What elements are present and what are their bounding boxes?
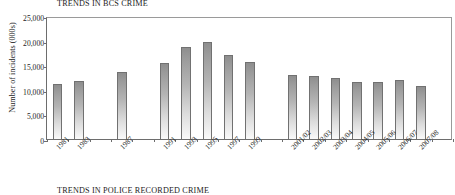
- bar: [74, 81, 84, 139]
- y-tick-mark: [44, 92, 47, 93]
- bar: [203, 42, 213, 139]
- y-tick-label: 10,000: [23, 87, 44, 96]
- plot-area: 05,00010,00015,00020,00025,000: [46, 17, 452, 140]
- bottom-caption: TRENDS IN POLICE RECORDED CRIME: [57, 186, 209, 195]
- bar: [160, 63, 170, 139]
- y-tick-mark: [44, 67, 47, 68]
- y-tick-label: 5,000: [27, 112, 44, 121]
- x-tick-mark: [282, 139, 283, 142]
- y-tick-label: 20,000: [23, 38, 44, 47]
- y-tick-mark: [44, 116, 47, 117]
- y-tick-mark: [44, 43, 47, 44]
- y-tick-label: 25,000: [23, 14, 44, 23]
- bar: [224, 55, 234, 139]
- bar: [309, 76, 319, 139]
- x-tick-mark: [453, 139, 454, 142]
- bcs-crime-bar-chart: TRENDS IN BCS CRIME Number of incidents …: [0, 0, 455, 195]
- y-tick-label: 15,000: [23, 63, 44, 72]
- x-tick-mark: [154, 139, 155, 142]
- chart-title: TRENDS IN BCS CRIME: [57, 0, 148, 8]
- bar: [245, 62, 255, 139]
- x-tick-mark: [111, 139, 112, 142]
- x-tick-mark: [47, 139, 48, 142]
- bar: [416, 86, 426, 139]
- y-axis-label: Number of incidents (000s): [8, 9, 17, 127]
- bar: [53, 84, 63, 139]
- bar: [117, 72, 127, 139]
- bar: [395, 80, 405, 139]
- bar: [352, 82, 362, 139]
- bar: [373, 82, 383, 139]
- y-tick-mark: [44, 18, 47, 19]
- bar: [331, 78, 341, 139]
- bar: [181, 47, 191, 139]
- bar: [288, 75, 298, 139]
